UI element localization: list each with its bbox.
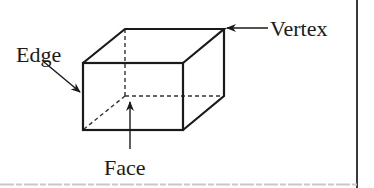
right-face xyxy=(183,29,224,130)
top-face xyxy=(83,29,224,63)
label-face: Face xyxy=(104,155,146,180)
label-vertex: Vertex xyxy=(270,16,327,41)
label-edge: Edge xyxy=(16,42,61,67)
edge-arrow-icon xyxy=(44,62,80,92)
prism xyxy=(83,29,224,130)
diagram-canvas: Edge Vertex Face xyxy=(0,0,374,188)
prism-diagram: Edge Vertex Face xyxy=(0,0,374,188)
